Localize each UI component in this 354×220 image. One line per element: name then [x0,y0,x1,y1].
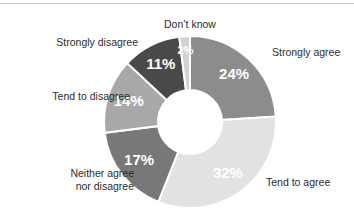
category-label-tend-to-agree: Tend to agree [266,176,354,189]
category-label-strongly-disagree: Strongly disagree [16,36,138,49]
slice-value-strongly-agree: 24% [219,65,249,82]
category-label-text: Tend to disagree [52,90,130,102]
category-label-neither-agree-nor-disagree: Neither agree nor disagree [12,167,134,193]
slice-value-strongly-disagree: 11% [146,55,175,72]
slice-value-dont-know: 2% [178,44,194,56]
category-label-text: Tend to agree [266,176,330,188]
category-label-text: Strongly agree [272,46,340,58]
category-label-tend-to-disagree: Tend to disagree [4,90,130,103]
category-label-dont-know: Don’t know [139,18,241,31]
donut-center-hole [158,90,222,154]
donut-chart-figure: 24%32%17%14%11%2% Don’t know Strongly ag… [0,0,354,220]
category-label-strongly-agree: Strongly agree [272,46,354,59]
category-label-text-line1: Neither agree [12,167,134,180]
slice-value-neither-agree-nor-disagree: 17% [124,151,154,168]
category-label-text: Don’t know [164,18,216,30]
category-label-text-line2: nor disagree [12,180,134,193]
category-label-text: Strongly disagree [56,36,138,48]
slice-value-tend-to-agree: 32% [213,164,243,181]
